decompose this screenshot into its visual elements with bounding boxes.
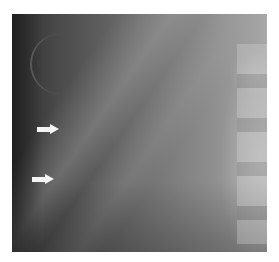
spine-region	[237, 44, 267, 244]
dark-bottom-region	[12, 182, 267, 252]
arrow-icon	[32, 174, 54, 184]
arrow-icon	[37, 124, 59, 134]
